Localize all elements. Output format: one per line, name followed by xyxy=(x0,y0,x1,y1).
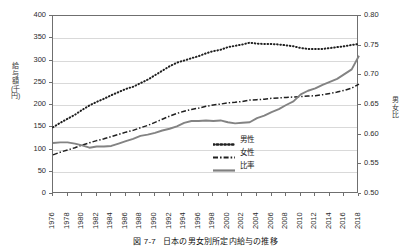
right-axis-title: 男女比 xyxy=(391,96,400,119)
x-tick-label: 1976 xyxy=(48,199,56,229)
left-tick-mark xyxy=(49,126,52,127)
x-tick-label: 1994 xyxy=(179,199,187,229)
right-tick-label: 0.50 xyxy=(364,189,390,197)
x-tick-label: 1988 xyxy=(135,199,143,229)
caption-text: 日本の男女別所定内給与の推移 xyxy=(163,237,278,246)
left-tick-label: 150 xyxy=(20,122,46,130)
left-tick-label: 100 xyxy=(20,145,46,153)
legend: 男性女性比率 xyxy=(213,133,275,172)
x-tick-label: 2010 xyxy=(296,199,304,229)
left-tick-label: 50 xyxy=(20,167,46,175)
right-tick-mark xyxy=(358,15,361,16)
series-比率 xyxy=(53,56,359,148)
left-tick-label: 200 xyxy=(20,100,46,108)
figure-caption: 図 7-7日本の男女別所定内給与の推移 xyxy=(0,235,411,246)
right-tick-label: 0.55 xyxy=(364,159,390,167)
left-axis-title: 給与額(千円) xyxy=(11,62,20,100)
right-tick-mark xyxy=(358,45,361,46)
legend-label: 女性 xyxy=(240,148,254,157)
x-tick-label: 1998 xyxy=(208,199,216,229)
right-tick-mark xyxy=(358,193,361,194)
x-tick-label: 2014 xyxy=(325,199,333,229)
right-tick-mark xyxy=(358,134,361,135)
x-tick-label: 2000 xyxy=(223,199,231,229)
legend-label: 男性 xyxy=(240,135,254,144)
legend-item-女性[interactable]: 女性 xyxy=(213,146,275,159)
legend-item-男性[interactable]: 男性 xyxy=(213,133,275,146)
left-tick-label: 350 xyxy=(20,33,46,41)
left-tick-mark xyxy=(49,149,52,150)
right-tick-label: 0.60 xyxy=(364,130,390,138)
caption-number: 図 7-7 xyxy=(133,237,156,246)
left-tick-label: 400 xyxy=(20,11,46,19)
x-tick-label: 2006 xyxy=(267,199,275,229)
x-tick-label: 1996 xyxy=(194,199,202,229)
right-tick-label: 0.65 xyxy=(364,100,390,108)
x-tick-label: 1986 xyxy=(121,199,129,229)
x-tick-label: 2012 xyxy=(310,199,318,229)
x-tick-label: 1980 xyxy=(77,199,85,229)
x-tick-label: 1990 xyxy=(150,199,158,229)
right-tick-label: 0.80 xyxy=(364,11,390,19)
legend-swatch-dotted xyxy=(213,135,235,144)
right-tick-label: 0.75 xyxy=(364,41,390,49)
figure-container: 給与額(千円) 男女比 400350300250200150100500 0.8… xyxy=(0,0,411,251)
left-tick-mark xyxy=(49,193,52,194)
legend-swatch-dashdot xyxy=(213,148,235,157)
left-tick-mark xyxy=(49,171,52,172)
x-tick-label: 2018 xyxy=(354,199,362,229)
x-tick-label: 2002 xyxy=(237,199,245,229)
right-tick-mark xyxy=(358,104,361,105)
x-tick-label: 2004 xyxy=(252,199,260,229)
right-tick-mark xyxy=(358,74,361,75)
x-tick-label: 2008 xyxy=(281,199,289,229)
legend-swatch-solid xyxy=(213,161,235,170)
left-tick-mark xyxy=(49,82,52,83)
left-tick-mark xyxy=(49,15,52,16)
series-男性 xyxy=(53,43,359,128)
series-lines xyxy=(53,16,359,194)
left-tick-mark xyxy=(49,37,52,38)
plot-area xyxy=(52,15,358,193)
legend-label: 比率 xyxy=(240,161,254,170)
legend-item-比率[interactable]: 比率 xyxy=(213,159,275,172)
left-tick-mark xyxy=(49,60,52,61)
x-tick-label: 2016 xyxy=(339,199,347,229)
left-tick-label: 300 xyxy=(20,56,46,64)
right-tick-label: 0.70 xyxy=(364,70,390,78)
left-tick-label: 0 xyxy=(20,189,46,197)
left-tick-label: 250 xyxy=(20,78,46,86)
series-女性 xyxy=(53,84,359,155)
x-tick-label: 1978 xyxy=(63,199,71,229)
x-tick-label: 1982 xyxy=(92,199,100,229)
right-tick-mark xyxy=(358,163,361,164)
x-tick-label: 1984 xyxy=(106,199,114,229)
x-tick-label: 1992 xyxy=(165,199,173,229)
left-tick-mark xyxy=(49,104,52,105)
